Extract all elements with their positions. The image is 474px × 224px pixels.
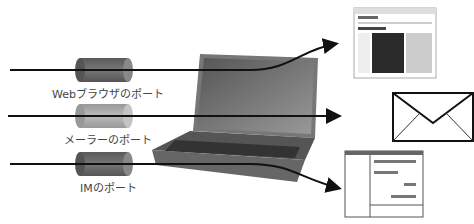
im-window-icon bbox=[345, 151, 423, 217]
mail-port-label: メーラーのポート bbox=[64, 131, 152, 147]
port-diagram bbox=[0, 0, 474, 224]
mail-envelope-icon bbox=[393, 93, 473, 141]
laptop-icon bbox=[152, 54, 318, 182]
im-port-label: IMのポート bbox=[80, 179, 137, 195]
web-port-label: Webブラウザのポート bbox=[52, 85, 164, 101]
browser-window-icon bbox=[354, 8, 436, 78]
